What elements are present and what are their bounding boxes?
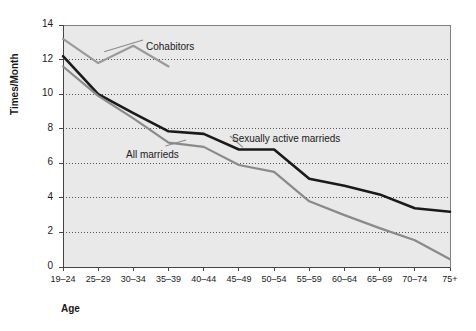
y-tick-label: 14	[31, 18, 53, 29]
x-tick-label: 45–49	[226, 274, 251, 284]
y-tick-label: 12	[31, 53, 53, 64]
x-tick-label: 35–39	[156, 274, 181, 284]
x-tick-label: 19–24	[50, 274, 75, 284]
plot-background	[63, 25, 450, 267]
y-tick-label: 8	[31, 122, 53, 133]
x-tick-label: 30–34	[121, 274, 146, 284]
x-tick-label: 40–44	[191, 274, 216, 284]
chart-figure: Times/Month Age 14121086420 19–2425–2930…	[0, 0, 476, 331]
series-label-sexually-active-marrieds: Sexually active marrieds	[232, 133, 340, 144]
series-label-cohabitors: Cohabitors	[146, 41, 194, 52]
y-tick-label: 10	[31, 87, 53, 98]
series-label-all-marrieds: All marrieds	[126, 149, 179, 160]
x-axis-title: Age	[61, 303, 80, 314]
x-tick-label: 50–54	[262, 274, 287, 284]
x-tick-label: 60–64	[332, 274, 357, 284]
x-tick-label: 65–69	[367, 274, 392, 284]
y-tick-label: 0	[31, 260, 53, 271]
y-tick-label: 6	[31, 156, 53, 167]
y-axis-title: Times/Month	[6, 24, 24, 144]
x-tick-label: 70–74	[402, 274, 427, 284]
x-tick-label: 75+	[442, 274, 457, 284]
x-tick-label: 55–59	[297, 274, 322, 284]
y-tick-label: 2	[31, 225, 53, 236]
y-tick-label: 4	[31, 191, 53, 202]
x-tick-label: 25–29	[86, 274, 111, 284]
